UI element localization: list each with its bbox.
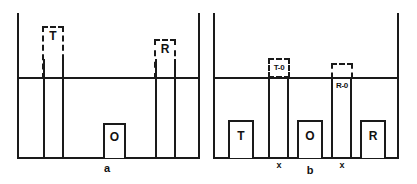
panel-b-region-r0-label: R-0 [331,82,353,90]
panel-b-outer-wall-right [397,13,399,159]
panel-b-block-r-label: R [360,130,386,142]
panel-b-caption: b [300,165,320,176]
panel-b-region-t0-label: T-0 [268,64,290,72]
panel-b-block-o-label: O [297,130,323,142]
panel-b-interface-line [213,77,399,79]
panel-b-block-t-label: T [228,130,254,142]
figure-container: T R O a T-0 R-0 T [0,0,417,184]
panel-b-partition-t0-right [287,77,289,159]
panel-b: T-0 R-0 T O R x x b [0,0,417,184]
panel-b-partition-t0-left [268,77,270,159]
panel-b-marker-x-left: x [268,161,290,170]
panel-b-outer-wall-left [213,13,215,159]
panel-b-dashed-region-r0 [331,63,353,78]
panel-b-marker-x-right: x [331,161,353,170]
